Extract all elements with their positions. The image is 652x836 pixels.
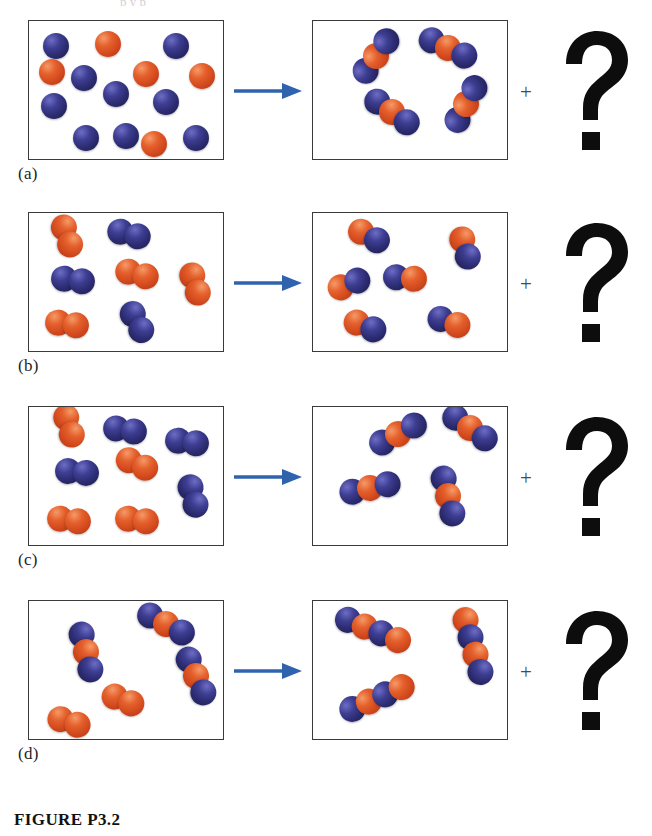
red-atom [400,265,428,293]
blue-atom [153,89,179,115]
molecule [440,71,492,138]
reactant-box-b [28,212,224,352]
clipped-header-text: p y p [120,0,540,6]
reactant-box-a [28,20,224,160]
question-mark-b [552,220,638,348]
product-box-a [312,20,508,160]
molecule [50,406,88,451]
molecule [101,413,149,446]
molecule [428,463,468,529]
red-atom [141,131,167,157]
blue-atom [163,33,189,59]
blue-atom [113,123,139,149]
molecule [449,604,496,688]
blue-atom [183,125,209,151]
molecule [331,603,415,657]
blue-atom [72,459,101,488]
panel-label-b: (b) [18,356,39,376]
plus-sign-c: + [514,466,538,490]
molecule [104,216,153,253]
molecule [414,23,481,73]
molecule [45,504,92,536]
molecule [66,619,106,685]
molecule [176,259,214,309]
reaction-arrow-c [232,466,304,488]
molecule [437,406,503,456]
molecule [112,443,163,485]
molecule [98,680,149,721]
reaction-arrow-d [232,660,304,682]
reaction-arrow-a [232,80,304,102]
reactant-box-c [28,406,224,546]
molecule [348,23,405,89]
molecule [365,408,432,460]
red-atom [95,31,121,57]
panel-label-a: (a) [18,164,38,184]
molecule [47,212,86,261]
molecule [335,670,419,726]
molecule [163,426,210,458]
molecule [343,214,394,258]
molecule [382,263,428,293]
product-box-b [312,212,508,352]
molecule [44,703,94,740]
red-atom [133,61,159,87]
molecule [359,84,425,141]
question-mark-d [552,608,638,736]
question-mark-a [552,28,638,156]
molecule [337,469,403,507]
problem-row-b: + (b) [0,204,652,394]
question-mark-c [552,414,638,542]
molecule [324,264,375,305]
product-box-c [312,406,508,546]
problem-row-a: + (a) [0,12,652,202]
figure-caption: FIGURE P3.2 [14,810,120,830]
blue-atom [73,125,99,151]
molecule [115,296,159,347]
problem-row-d: + (d) [0,592,652,782]
blue-atom [41,93,67,119]
product-box-d [312,600,508,740]
molecule [133,600,200,650]
red-atom [39,59,65,85]
blue-atom [43,33,69,59]
molecule [172,642,221,709]
molecule [174,471,211,520]
blue-atom [71,65,97,91]
molecule [43,308,90,340]
molecule [54,457,100,487]
reaction-arrow-b [232,272,304,294]
reactant-box-d [28,600,224,740]
plus-sign-b: + [514,272,538,296]
plus-sign-d: + [514,660,538,684]
blue-atom [103,81,129,107]
panel-label-d: (d) [18,744,39,764]
molecule [340,306,391,347]
molecule [112,256,161,293]
figure-page: p y p + (a) + (b) [0,0,652,836]
molecule [113,504,160,536]
red-atom [189,63,215,89]
molecule [49,264,96,296]
problem-row-c: + (c) [0,398,652,588]
panel-label-c: (c) [18,550,38,570]
plus-sign-a: + [514,80,538,104]
molecule [446,223,484,273]
molecule [424,302,474,341]
